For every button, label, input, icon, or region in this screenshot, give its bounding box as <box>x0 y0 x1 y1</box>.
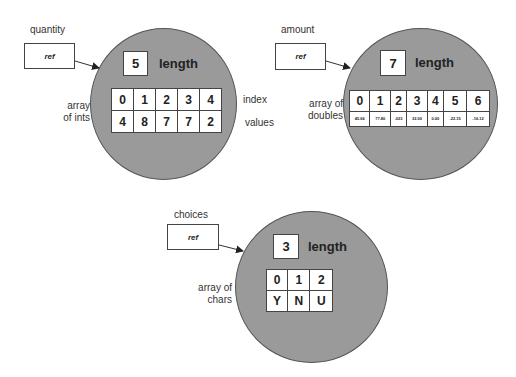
reference-arrows <box>0 0 516 377</box>
arrow-quantity <box>75 61 99 68</box>
arrow-amount <box>326 61 350 68</box>
arrow-choices <box>219 245 243 251</box>
